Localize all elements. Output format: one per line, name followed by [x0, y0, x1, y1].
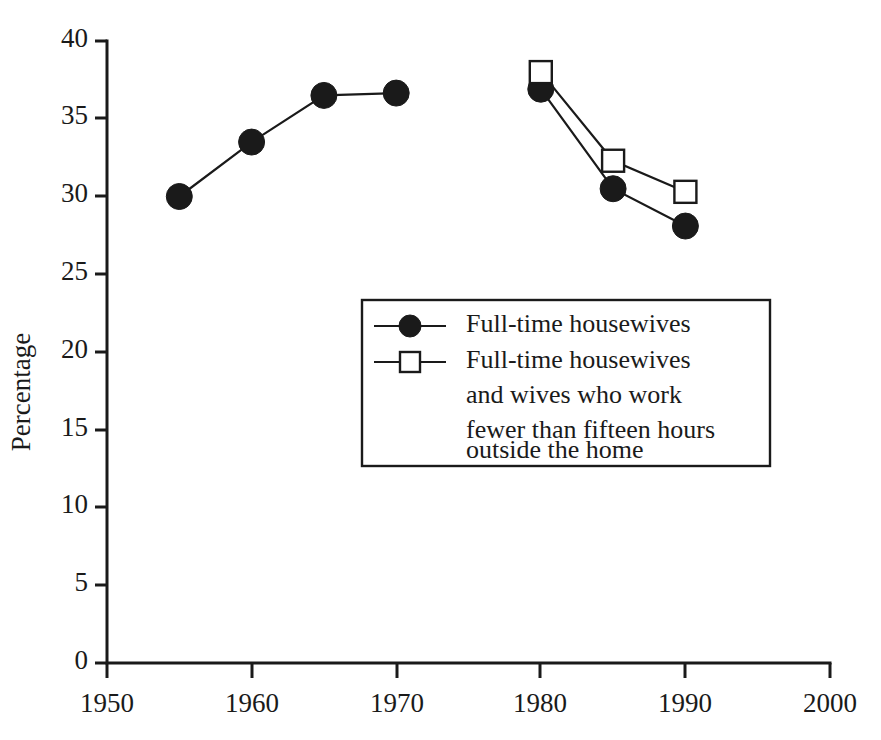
x-tick-label-1990: 1990: [658, 688, 712, 718]
legend-label-1-line-1: Full-time housewives: [466, 309, 691, 338]
y-tick-label-25: 25: [61, 256, 88, 286]
open-square-icon: [400, 352, 420, 372]
y-axis-title-group: Percentage: [6, 333, 36, 451]
x-tick-label-2000: 2000: [803, 688, 857, 718]
y-tick-label-30: 30: [61, 178, 88, 208]
chart-figure: 40 35 30 25 20 15 10 5 0 Percentage 1950…: [0, 0, 881, 740]
x-axis-ticks: 1950 1960 1970 1980 1990 2000: [80, 663, 857, 718]
legend-label-2-line-4: outside the home: [466, 435, 644, 464]
y-axis-ticks: 40 35 30 25 20 15 10 5 0: [61, 23, 107, 675]
y-tick-label-40: 40: [61, 23, 88, 53]
x-tick-label-1960: 1960: [225, 688, 279, 718]
y-tick-label-15: 15: [61, 412, 88, 442]
y-axis-title: Percentage: [6, 333, 36, 451]
series-2-segment-1: [541, 72, 686, 192]
data-point-filled-circle: [239, 129, 265, 155]
data-point-open-square: [674, 181, 696, 203]
y-tick-label-5: 5: [75, 567, 89, 597]
data-point-filled-circle: [166, 184, 192, 210]
data-point-open-square: [530, 61, 552, 83]
filled-circle-icon: [399, 315, 421, 337]
y-tick-label-35: 35: [61, 100, 88, 130]
series-1-segment-1: [179, 93, 396, 196]
x-tick-label-1950: 1950: [80, 688, 134, 718]
data-point-filled-circle: [311, 82, 337, 108]
line-chart: 40 35 30 25 20 15 10 5 0 Percentage 1950…: [0, 0, 881, 740]
y-tick-label-0: 0: [75, 645, 89, 675]
y-tick-label-20: 20: [61, 334, 88, 364]
x-tick-label-1980: 1980: [513, 688, 567, 718]
legend-label-2-line-1: Full-time housewives: [466, 345, 691, 374]
data-point-open-square: [602, 150, 624, 172]
data-series-layer: [166, 61, 698, 239]
y-tick-label-10: 10: [61, 489, 88, 519]
legend: Full-time housewives Full-time housewive…: [362, 300, 770, 466]
x-tick-label-1970: 1970: [370, 688, 424, 718]
data-point-filled-circle: [383, 80, 409, 106]
data-point-filled-circle: [600, 176, 626, 202]
data-point-filled-circle: [672, 213, 698, 239]
legend-label-2-line-2: and wives who work: [466, 380, 682, 409]
